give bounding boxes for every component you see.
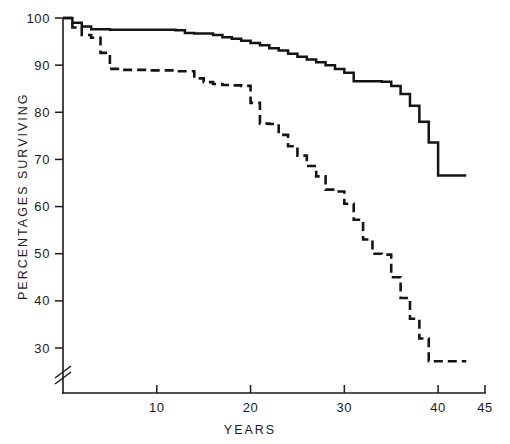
series-dashed-curve [63, 18, 466, 361]
x-tick-label-45: 45 [477, 400, 493, 415]
y-tick-label-80: 80 [34, 105, 50, 120]
x-tick-label-40: 40 [430, 400, 446, 415]
survival-chart: 30405060708090100 PERCENTAGES SURVIVING … [0, 0, 510, 444]
x-axis-ticks [157, 385, 485, 393]
x-tick-label-20: 20 [243, 400, 259, 415]
x-axis-title: YEARS [224, 423, 276, 437]
x-axis-tick-labels: 1020304045 [149, 400, 493, 415]
y-axis-ticks [55, 18, 63, 348]
y-tick-label-100: 100 [27, 11, 51, 26]
y-axis-title: PERCENTAGES SURVIVING [16, 92, 30, 300]
chart-canvas: 30405060708090100 PERCENTAGES SURVIVING … [0, 0, 510, 444]
y-tick-label-90: 90 [34, 58, 50, 73]
y-tick-label-40: 40 [34, 293, 50, 308]
series-solid-curve [63, 18, 466, 175]
y-axis-tick-labels: 30405060708090100 [27, 11, 51, 356]
x-axis-group: 1020304045 YEARS [63, 385, 493, 437]
y-tick-label-60: 60 [34, 199, 50, 214]
y-tick-label-70: 70 [34, 152, 50, 167]
y-axis-group: 30405060708090100 PERCENTAGES SURVIVING [16, 11, 71, 394]
x-tick-label-30: 30 [336, 400, 352, 415]
y-tick-label-30: 30 [34, 341, 50, 356]
x-tick-label-10: 10 [149, 400, 165, 415]
y-tick-label-50: 50 [34, 246, 50, 261]
data-series-group [63, 18, 466, 361]
